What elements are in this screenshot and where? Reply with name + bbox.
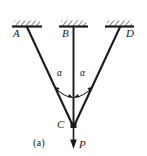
load-arrow-head [70,140,77,150]
support-a [12,21,42,27]
figure-caption: (a) [33,138,45,149]
node-label-d: D [126,28,134,39]
angle-label-right: α [80,69,85,79]
support-a-hatching [14,21,40,27]
support-b-hatching [61,21,86,27]
support-b [59,21,88,27]
statics-figure: A B D C α α P (a) [0,0,147,156]
node-label-a: A [13,28,20,39]
angle-arc-right-head-inner [74,94,79,98]
load-label-p: P [79,139,86,150]
node-label-c: C [57,119,64,130]
support-d-hatching [107,21,132,27]
member-ac [27,27,73,126]
support-d [105,21,134,27]
angle-label-left: α [57,69,62,79]
node-label-b: B [62,28,69,39]
angle-arc-left-head-inner [68,94,73,98]
figure-drawing [0,0,147,156]
